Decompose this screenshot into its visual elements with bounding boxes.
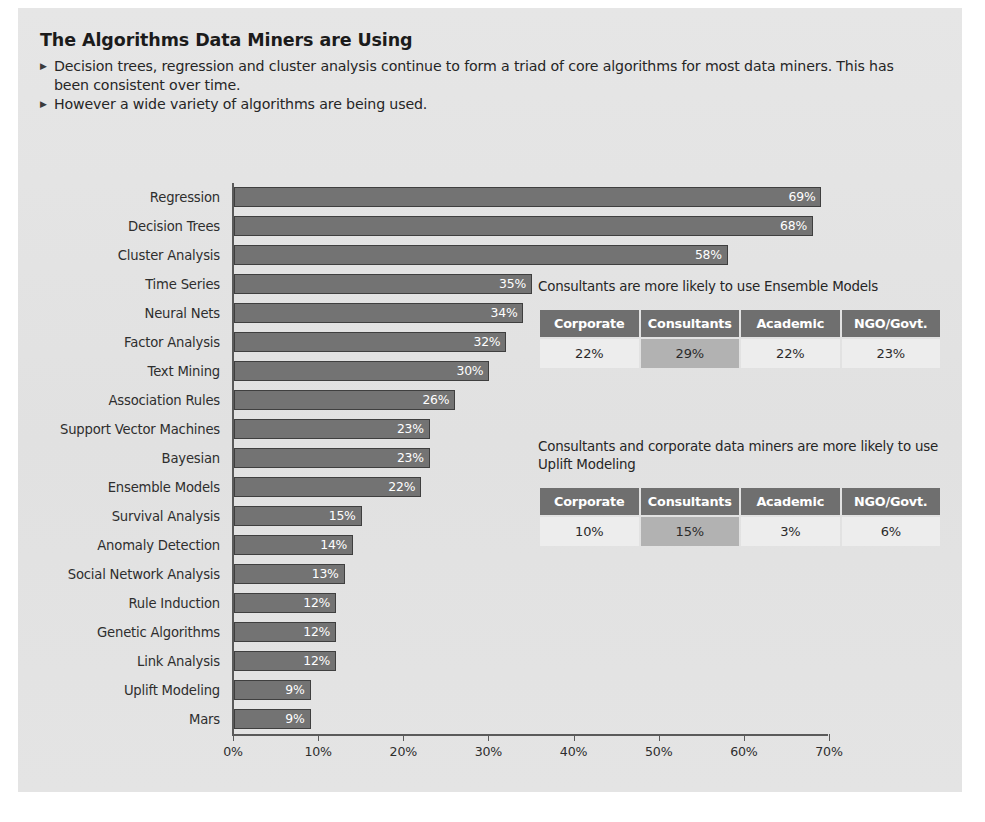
table-cell-highlighted: 29% [641,339,740,368]
bar-row: 12% [232,618,852,647]
category-label: Association Rules [18,386,226,415]
bullet-text: Decision trees, regression and cluster a… [54,57,930,94]
bar-value-label: 12% [303,594,330,612]
category-label: Neural Nets [18,299,226,328]
category-label: Factor Analysis [18,328,226,357]
bar-value-label: 68% [780,217,807,235]
axis-tick [744,734,745,741]
bar-value-label: 23% [397,420,424,438]
stat-table: Corporate Consultants Academic NGO/Govt.… [538,308,942,370]
table-column-header: Corporate [540,310,639,337]
bar-value-label: 23% [397,449,424,467]
triangle-bullet-icon: ▶ [40,95,54,109]
table-column-header: Corporate [540,488,639,515]
table-column-header: Academic [741,310,840,337]
axis-tick-label: 60% [730,744,757,759]
category-label: Uplift Modeling [18,676,226,705]
bar: 69% [234,187,821,207]
category-label: Regression [18,183,226,212]
axis-tick-label: 20% [390,744,417,759]
bar-value-label: 13% [312,565,339,583]
side-caption: Consultants are more likely to use Ensem… [538,278,953,296]
bar-value-label: 14% [320,536,347,554]
table-cell: 22% [741,339,840,368]
page-title: The Algorithms Data Miners are Using [40,30,930,50]
category-axis-labels: RegressionDecision TreesCluster Analysis… [18,183,226,734]
category-label: Time Series [18,270,226,299]
bar: 26% [234,390,455,410]
bar: 12% [234,651,336,671]
axis-tick [488,734,489,741]
category-label: Bayesian [18,444,226,473]
axis-tick [318,734,319,741]
category-label: Ensemble Models [18,473,226,502]
category-label: Rule Induction [18,589,226,618]
table-row: 22% 29% 22% 23% [540,339,940,368]
bar: 15% [234,506,362,526]
table-cell: 23% [842,339,941,368]
table-cell: 22% [540,339,639,368]
axis-tick [403,734,404,741]
side-stat-block-uplift-modeling: Consultants and corporate data miners ar… [538,438,953,548]
axis-tick [233,734,234,741]
bar-value-label: 69% [789,188,816,206]
category-label: Genetic Algorithms [18,618,226,647]
table-header-row: Corporate Consultants Academic NGO/Govt. [540,310,940,337]
axis-tick-label: 0% [223,744,243,759]
bar-row: 58% [232,241,852,270]
axis-tick-label: 50% [645,744,672,759]
category-label: Decision Trees [18,212,226,241]
table-column-header: Consultants [641,310,740,337]
category-axis-line [232,734,828,736]
category-label: Social Network Analysis [18,560,226,589]
category-label: Cluster Analysis [18,241,226,270]
table-column-header: NGO/Govt. [842,310,941,337]
table-cell: 3% [741,517,840,546]
table-column-header: Consultants [641,488,740,515]
bullet-item: ▶ Decision trees, regression and cluster… [40,57,930,94]
table-cell: 6% [842,517,941,546]
bar-value-label: 26% [422,391,449,409]
category-label: Mars [18,705,226,734]
bar-row: 12% [232,647,852,676]
bar: 14% [234,535,353,555]
category-label: Anomaly Detection [18,531,226,560]
bullet-item: ▶ However a wide variety of algorithms a… [40,95,930,114]
side-stat-block-ensemble-models: Consultants are more likely to use Ensem… [538,278,953,370]
bullet-text: However a wide variety of algorithms are… [54,95,427,114]
bar-value-label: 12% [303,623,330,641]
bar-value-label: 22% [388,478,415,496]
table-cell-highlighted: 15% [641,517,740,546]
category-label: Survival Analysis [18,502,226,531]
bar: 68% [234,216,813,236]
bar-value-label: 34% [491,304,518,322]
bar-row: 9% [232,676,852,705]
bar: 22% [234,477,421,497]
table-row: 10% 15% 3% 6% [540,517,940,546]
category-label: Support Vector Machines [18,415,226,444]
bar-value-label: 32% [474,333,501,351]
category-label: Link Analysis [18,647,226,676]
table-column-header: NGO/Govt. [842,488,941,515]
bar: 9% [234,680,311,700]
bar-row: 12% [232,589,852,618]
axis-tick-label: 40% [560,744,587,759]
bar: 12% [234,593,336,613]
bar-row: 13% [232,560,852,589]
bar-value-label: 15% [329,507,356,525]
bar: 34% [234,303,523,323]
bar: 30% [234,361,489,381]
axis-tick-label: 70% [815,744,842,759]
bar: 23% [234,419,430,439]
bar-value-label: 35% [499,275,526,293]
bar-value-label: 58% [695,246,722,264]
bar-row: 69% [232,183,852,212]
bar: 35% [234,274,532,294]
header-block: The Algorithms Data Miners are Using ▶ D… [40,30,930,115]
bar: 58% [234,245,728,265]
table-column-header: Academic [741,488,840,515]
bar-row: 68% [232,212,852,241]
bar-value-label: 9% [285,681,304,699]
table-cell: 10% [540,517,639,546]
bar-row: 9% [232,705,852,734]
